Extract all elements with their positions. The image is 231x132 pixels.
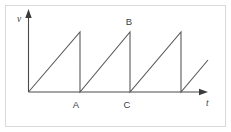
point-label-b: B [126, 16, 132, 27]
up-arrow-icon [25, 9, 31, 18]
sawtooth-waveform [29, 32, 209, 92]
right-arrow-icon [199, 89, 208, 95]
point-label-a: A [73, 99, 80, 110]
figure-container: v t A B C [0, 0, 231, 132]
point-label-c: C [124, 99, 131, 110]
x-axis-label: t [206, 98, 209, 108]
y-axis-label: v [17, 14, 22, 24]
sawtooth-plot: v t A B C [0, 0, 231, 132]
